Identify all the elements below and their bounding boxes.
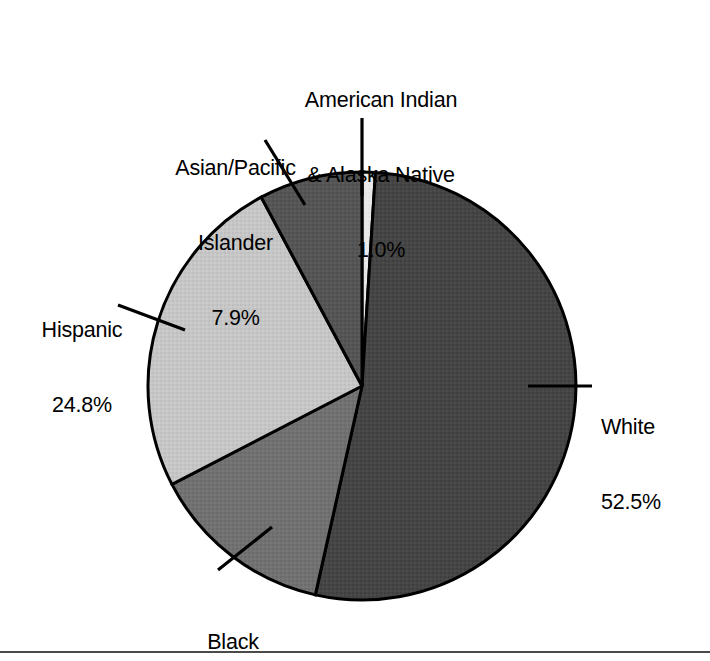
slice-label-line1: Hispanic <box>12 318 152 343</box>
slice-label-black: Black 13.9% <box>178 580 288 661</box>
slice-label-line2: Islander <box>148 231 323 256</box>
pie-chart-figure: American Indian & Alaska Native 1.0% Asi… <box>0 0 710 661</box>
slice-label-percent: 52.5% <box>601 490 701 515</box>
slice-label-line1: White <box>601 415 701 440</box>
slice-label-white: White 52.5% <box>601 365 701 565</box>
slice-label-line1: Asian/Pacific <box>148 156 323 181</box>
slice-label-asian-pacific-islander: Asian/Pacific Islander 7.9% <box>148 106 323 381</box>
bottom-divider-rule <box>0 651 710 653</box>
slice-label-percent: 7.9% <box>148 306 323 331</box>
slice-label-hispanic: Hispanic 24.8% <box>12 268 152 468</box>
slice-label-percent: 24.8% <box>12 393 152 418</box>
